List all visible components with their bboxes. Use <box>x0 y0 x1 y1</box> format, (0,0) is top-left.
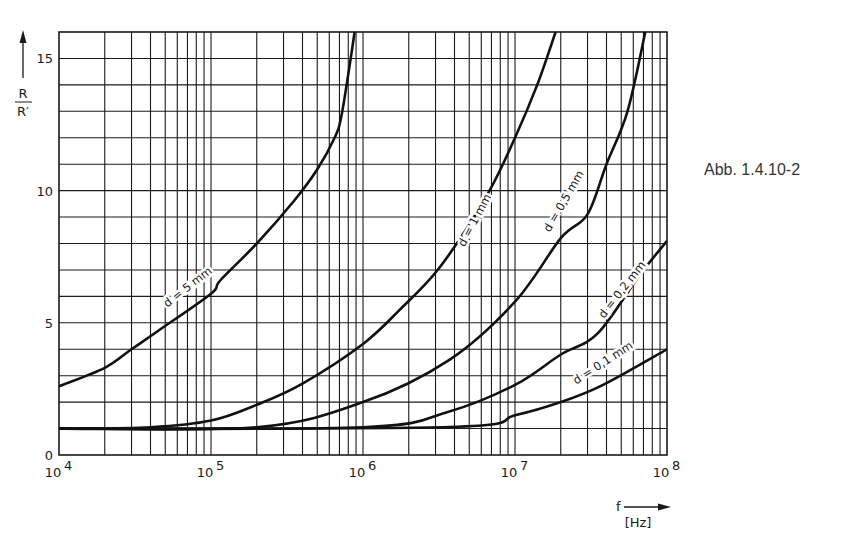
x-tick-label: 10 <box>45 465 62 480</box>
x-tick-exponent: 6 <box>368 458 376 473</box>
y-arrowhead-icon <box>20 30 27 43</box>
y-axis-label: R R′ <box>15 30 32 119</box>
figure-caption: Abb. 1.4.10-2 <box>704 161 800 179</box>
y-label-denominator: R′ <box>17 104 29 119</box>
x-tick-label: 10 <box>349 465 366 480</box>
chart: d = 5 mmd = 1 mmd = 0,5 mmd = 0,2 mmd = … <box>0 0 845 547</box>
y-axis-ticks: 051015 <box>36 51 53 463</box>
curve-labels: d = 5 mmd = 1 mmd = 0,5 mmd = 0,2 mmd = … <box>161 168 649 387</box>
curve-label-1: d = 1 mm <box>455 191 494 248</box>
x-label: f <box>616 499 621 514</box>
x-axis-ticks: 104105106107108 <box>45 458 681 480</box>
y-tick-label: 0 <box>45 448 53 463</box>
curve-label-3: d = 0,2 mm <box>595 258 648 321</box>
x-axis-label: f [Hz] <box>616 499 671 530</box>
y-tick-label: 10 <box>36 184 53 199</box>
y-label-numerator: R <box>18 86 27 101</box>
x-tick-exponent: 4 <box>64 458 72 473</box>
y-tick-label: 5 <box>45 316 53 331</box>
x-tick-exponent: 8 <box>672 458 680 473</box>
x-tick-exponent: 5 <box>216 458 224 473</box>
x-unit-label: [Hz] <box>625 515 652 530</box>
x-tick-exponent: 7 <box>520 458 528 473</box>
x-tick-label: 10 <box>653 465 670 480</box>
x-tick-label: 10 <box>197 465 214 480</box>
plot-grid <box>59 32 667 455</box>
y-tick-label: 15 <box>36 51 53 66</box>
x-arrowhead-icon <box>658 504 671 511</box>
curve-series-2 <box>59 32 645 430</box>
x-tick-label: 10 <box>501 465 518 480</box>
